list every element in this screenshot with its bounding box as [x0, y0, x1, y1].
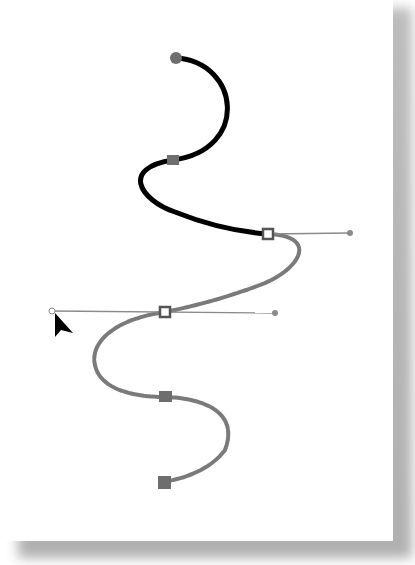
- unselected-path-segment[interactable]: [94, 234, 299, 482]
- handle-point-icon[interactable]: [272, 310, 278, 316]
- selected-path-segment[interactable]: [140, 58, 268, 234]
- anchor-end-icon[interactable]: [158, 476, 171, 489]
- anchor-start-icon[interactable]: [170, 52, 182, 64]
- anchor-selected-icon[interactable]: [263, 229, 273, 239]
- handle-point-icon[interactable]: [347, 230, 353, 236]
- handle-point-icon[interactable]: [49, 308, 55, 314]
- path-diagram: [0, 0, 415, 565]
- anchor-point-icon[interactable]: [167, 155, 179, 165]
- anchor-selected-icon[interactable]: [160, 307, 170, 317]
- arrow-cursor-icon: [55, 313, 73, 337]
- anchor-point-icon[interactable]: [159, 391, 172, 402]
